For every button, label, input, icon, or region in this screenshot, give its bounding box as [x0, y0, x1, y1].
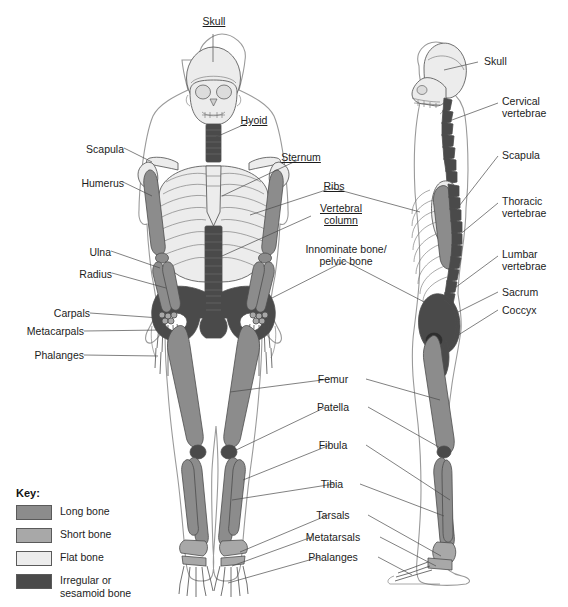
label-phalanges-foot: Phalanges [294, 552, 372, 564]
legend-swatch-short-bone [16, 528, 52, 543]
label-metacarpals: Metacarpals [2, 326, 84, 338]
label-carpals: Carpals [10, 308, 90, 320]
anterior-vertebral-column [205, 226, 222, 294]
skeleton-diagram: .bo{stroke:#4d4d4d;stroke-width:0.8;} .b… [0, 0, 568, 607]
label-skull-lateral: Skull [484, 56, 507, 68]
patella-right [221, 445, 237, 459]
label-sacrum: Sacrum [502, 287, 538, 299]
lateral-patella [437, 446, 451, 458]
label-fibula: Fibula [306, 440, 360, 452]
label-skull-anterior: Skull [188, 16, 240, 28]
lateral-foot [388, 542, 456, 584]
anterior-cervical-vertebrae [206, 124, 221, 162]
label-scapula-lateral: Scapula [502, 150, 540, 162]
legend-swatch-flat-bone [16, 551, 52, 566]
label-tarsals: Tarsals [304, 510, 362, 522]
label-ribs: Ribs [310, 181, 358, 193]
label-vertebral-column: Vertebral column [310, 203, 372, 226]
patella-left [190, 445, 206, 459]
label-humerus: Humerus [40, 178, 124, 190]
legend-label-irregular-bone: Irregular or sesamoid bone [60, 574, 131, 599]
label-scapula-anterior: Scapula [40, 144, 124, 156]
anterior-right-foot [214, 540, 248, 597]
label-phalanges-hand: Phalanges [8, 350, 84, 362]
label-hyoid: Hyoid [228, 115, 280, 127]
label-femur: Femur [306, 374, 360, 386]
legend-label-long-bone: Long bone [60, 505, 110, 518]
label-coccyx: Coccyx [502, 305, 536, 317]
label-tibia: Tibia [310, 479, 354, 491]
anterior-left-leg [167, 326, 213, 597]
label-thoracic-vertebrae: Thoracic vertebrae [502, 196, 546, 219]
label-cervical-vertebrae: Cervical vertebrae [502, 96, 546, 119]
lateral-femur [423, 336, 454, 455]
legend: Key: Long bone Short bone Flat bone Irre… [14, 487, 148, 597]
anterior-left-foot [179, 540, 213, 597]
lateral-skeleton [388, 42, 470, 585]
label-lumbar-vertebrae: Lumbar vertebrae [502, 249, 546, 272]
legend-title: Key: [16, 487, 40, 499]
legend-swatch-long-bone [16, 505, 52, 520]
label-innominate-bone: Innominate bone/ pelvic bone [300, 244, 392, 267]
anterior-right-leg [214, 326, 260, 597]
label-sternum: Sternum [270, 152, 332, 164]
legend-label-short-bone: Short bone [60, 528, 111, 541]
legend-swatch-irregular-bone [16, 574, 52, 589]
label-metatarsals: Metatarsals [288, 532, 378, 544]
label-ulna: Ulna [30, 247, 111, 259]
lateral-cervical-vertebrae [442, 98, 457, 184]
anterior-skull [186, 47, 240, 125]
legend-label-flat-bone: Flat bone [60, 551, 104, 564]
label-patella: Patella [304, 402, 362, 414]
lateral-fibula [442, 460, 453, 542]
label-radius: Radius [30, 269, 112, 281]
